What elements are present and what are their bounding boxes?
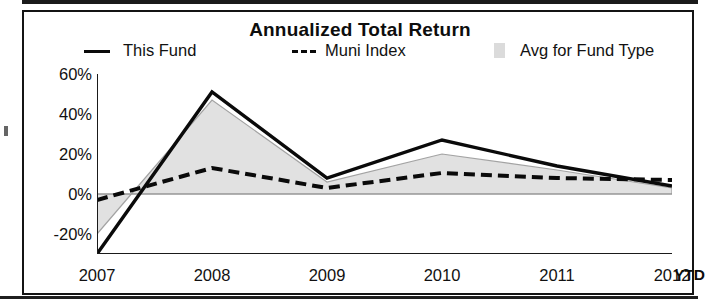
- legend-label-this-fund: This Fund: [123, 41, 196, 60]
- x-tick-label: 2007: [79, 266, 116, 285]
- area-swatch-icon: [494, 43, 505, 58]
- legend-item-muni-index[interactable]: Muni Index: [292, 41, 406, 60]
- plot-area: [97, 74, 672, 254]
- legend-label-muni-index: Muni Index: [325, 41, 406, 60]
- y-tick-label: 20%: [36, 145, 92, 164]
- x-tick-label: 2011: [539, 266, 574, 285]
- legend-item-this-fund[interactable]: This Fund: [84, 41, 196, 60]
- dashed-line-swatch-icon: [292, 50, 316, 53]
- page-top-rule: [22, 0, 698, 4]
- legend-label-avg-for-fund-type: Avg for Fund Type: [520, 41, 654, 60]
- page-margin-artifact: [4, 126, 8, 136]
- y-axis-tick-labels: 60%40%20%0%-20%: [32, 74, 92, 254]
- x-axis-ytd-label: YTD: [674, 266, 705, 284]
- chart-plot-svg: [97, 74, 672, 254]
- y-tick-label: 0%: [36, 185, 92, 204]
- x-axis-tick-labels: 200720082009201020112012: [97, 266, 672, 290]
- solid-line-swatch-icon: [84, 50, 110, 53]
- legend-item-avg-for-fund-type[interactable]: Avg for Fund Type: [494, 41, 654, 60]
- x-tick-label: 2008: [194, 266, 231, 285]
- x-tick-label: 2009: [309, 266, 346, 285]
- page-bottom-rule: [0, 296, 698, 299]
- chart-title: Annualized Total Return: [24, 19, 696, 41]
- chart-frame: Annualized Total Return This Fund Muni I…: [22, 10, 694, 295]
- y-tick-label: -20%: [36, 225, 92, 244]
- area-series-avg-for-fund-type: [97, 100, 672, 234]
- x-tick-label: 2010: [424, 266, 461, 285]
- y-tick-label: 40%: [36, 105, 92, 124]
- y-tick-label: 60%: [36, 65, 92, 84]
